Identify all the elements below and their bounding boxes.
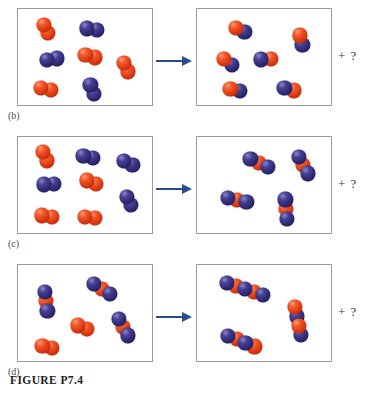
- panel-c-reactants: [17, 136, 153, 234]
- reaction-row-b: + ? (b): [0, 4, 365, 128]
- panel-b-products: [196, 8, 332, 106]
- panel-d-products: [196, 264, 332, 362]
- panel-label-c: (c): [8, 238, 19, 249]
- reaction-arrow-icon: [156, 54, 192, 68]
- panel-d-unknown-product: + ?: [338, 304, 357, 320]
- reaction-row-c: + ? (c): [0, 132, 365, 256]
- blue-atom: [300, 166, 315, 181]
- panel-d-reactants: [17, 264, 153, 362]
- panel-c-unknown-product: + ?: [338, 176, 357, 192]
- panel-b-unknown-product: + ?: [338, 48, 357, 64]
- reaction-arrow-icon: [156, 182, 192, 196]
- blue-atom: [260, 160, 275, 175]
- blue-atom: [256, 287, 271, 302]
- panel-b-reactants: [17, 8, 153, 106]
- panel-label-b: (b): [8, 110, 20, 121]
- blue-atom: [103, 286, 118, 301]
- reaction-row-d: + ? (d): [0, 260, 365, 384]
- blue-atom: [120, 328, 135, 343]
- panel-c-products: [196, 136, 332, 234]
- figure-p7-4: + ? (b) + ? (c) + ? (d) FIGURE P7.4: [0, 0, 365, 394]
- blue-atom: [40, 303, 55, 318]
- figure-caption: FIGURE P7.4: [10, 374, 83, 386]
- blue-atom: [279, 211, 294, 226]
- reaction-arrow-icon: [156, 310, 192, 324]
- blue-atom: [239, 194, 254, 209]
